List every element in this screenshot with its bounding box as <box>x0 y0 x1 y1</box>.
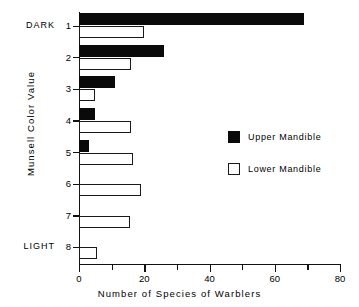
y-axis-tick <box>73 184 79 185</box>
x-axis-minor-tick <box>112 265 113 270</box>
y-axis-tick-label: 7 <box>58 211 71 221</box>
bar-lower-mandible <box>79 58 131 70</box>
x-axis-tick-label: 80 <box>325 274 355 284</box>
legend-label: Lower Mandible <box>248 164 321 175</box>
y-axis-title: Munsell Color Value <box>25 49 36 199</box>
y-axis-tick <box>73 89 79 90</box>
bar-upper-mandible <box>79 140 89 152</box>
chart-legend: Upper MandibleLower Mandible <box>228 131 348 195</box>
x-axis-tick <box>79 265 80 272</box>
bar-upper-mandible <box>79 13 304 25</box>
bar-lower-mandible <box>79 89 95 101</box>
y-axis-tick <box>73 152 79 153</box>
x-axis-minor-tick <box>177 265 178 270</box>
y-axis-tick-label: 1 <box>58 21 71 31</box>
y-axis-end-label: DARK <box>3 21 55 30</box>
bar-upper-mandible <box>79 76 115 88</box>
x-axis-title: Number of Species of Warblers <box>0 288 359 299</box>
category-row: 2 <box>79 44 340 76</box>
x-axis-tick-label: 0 <box>64 274 94 284</box>
y-axis-tick-label: 4 <box>58 116 71 126</box>
legend-swatch-filled <box>228 131 240 143</box>
category-row: 1DARK <box>79 12 340 44</box>
y-axis-tick <box>73 26 79 27</box>
y-axis-tick-label: 2 <box>58 53 71 63</box>
bar-upper-mandible <box>79 45 164 57</box>
x-axis-ticks: 020406080 <box>79 265 341 289</box>
bar-lower-mandible <box>79 184 141 196</box>
legend-label: Upper Mandible <box>248 132 321 143</box>
bar-lower-mandible <box>79 153 133 165</box>
bar-upper-mandible <box>79 108 95 120</box>
y-axis-tick-label: 3 <box>58 84 71 94</box>
x-axis-tick-label: 20 <box>129 274 159 284</box>
y-axis-end-label: LIGHT <box>3 242 55 251</box>
category-row: 7 <box>79 202 340 234</box>
y-axis-tick <box>73 120 79 121</box>
category-row: 3 <box>79 75 340 107</box>
warbler-mandible-color-chart: 1DARK2345678LIGHT 020406080 Number of Sp… <box>0 0 359 307</box>
bar-lower-mandible <box>79 216 130 228</box>
legend-entry: Lower Mandible <box>228 163 348 177</box>
y-axis-tick-label: 8 <box>58 242 71 252</box>
x-axis-tick-label: 60 <box>260 274 290 284</box>
x-axis-tick <box>340 265 341 272</box>
y-axis-tick-label: 6 <box>58 179 71 189</box>
bar-lower-mandible <box>79 26 144 38</box>
x-axis-tick <box>144 265 145 272</box>
legend-swatch-open <box>228 163 240 175</box>
legend-entry: Upper Mandible <box>228 131 348 145</box>
x-axis-tick <box>210 265 211 272</box>
y-axis-tick-label: 5 <box>58 148 71 158</box>
x-axis-minor-tick <box>307 265 308 270</box>
x-axis-minor-tick <box>242 265 243 270</box>
bar-lower-mandible <box>79 247 97 259</box>
y-axis-tick <box>73 57 79 58</box>
y-axis-tick <box>73 215 79 216</box>
x-axis-tick <box>275 265 276 272</box>
category-row: 8LIGHT <box>79 233 340 265</box>
y-axis-tick <box>73 247 79 248</box>
x-axis-tick-label: 40 <box>195 274 225 284</box>
bar-lower-mandible <box>79 121 131 133</box>
